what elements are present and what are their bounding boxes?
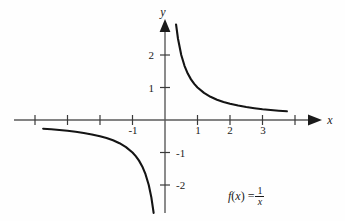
y-axis-label: y <box>159 5 166 19</box>
y-tick-label--1: -1 <box>176 147 185 159</box>
y-tick-label-1: 1 <box>149 82 155 94</box>
formula-fraction: 1x <box>255 186 264 208</box>
x-tick-label-3: 3 <box>260 124 266 136</box>
x-tick-label-2: 2 <box>227 124 233 136</box>
function-graph-figure: -1 1 2 3 2 1 -1 -2 x y f(x) =1x <box>0 0 345 221</box>
y-tick-label-2: 2 <box>149 49 155 61</box>
x-axis-label: x <box>326 113 333 127</box>
formula-close-paren: ) <box>241 189 245 203</box>
formula-equals-sign: = <box>248 189 255 203</box>
function-formula-annotation: f(x) =1x <box>228 186 264 208</box>
formula-numerator: 1 <box>255 186 264 197</box>
figure-background <box>0 0 345 221</box>
x-tick-label-1: 1 <box>195 124 201 136</box>
x-tick-label--1: -1 <box>128 124 137 136</box>
y-tick-label--2: -2 <box>176 179 185 191</box>
formula-denominator: x <box>255 196 264 208</box>
graph-canvas: -1 1 2 3 2 1 -1 -2 x y <box>0 0 345 221</box>
